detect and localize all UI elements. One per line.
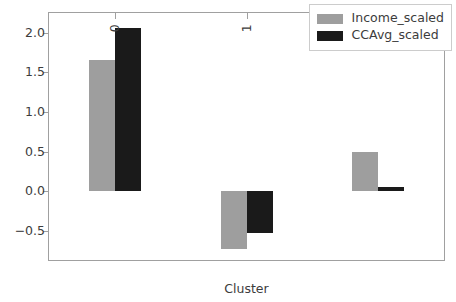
legend-item: CCAvg_scaled: [317, 27, 444, 44]
legend-swatch-income-scaled: [317, 14, 343, 24]
x-tick-mark: [115, 13, 116, 19]
legend-label-income-scaled: Income_scaled: [352, 12, 444, 25]
legend-swatch-ccavg-scaled: [317, 31, 343, 41]
y-tick-label: 0.0: [25, 185, 45, 198]
y-tick-label: 0.5: [25, 145, 45, 158]
legend-label-ccavg-scaled: CCAvg_scaled: [352, 29, 439, 42]
bar: [89, 60, 115, 191]
y-tick-label: 1.0: [25, 106, 45, 119]
chart-legend: Income_scaled CCAvg_scaled: [309, 4, 452, 51]
bar: [247, 191, 273, 233]
bar: [221, 191, 247, 249]
x-tick-label: 0: [109, 24, 122, 32]
legend-item: Income_scaled: [317, 10, 444, 27]
y-tick-label: 2.0: [25, 27, 45, 40]
bar: [352, 152, 378, 191]
y-tick-label: 1.5: [25, 66, 45, 79]
chart-figure: 2.01.51.00.50.0−0.5012 Cluster Income_sc…: [0, 0, 456, 302]
x-tick-mark: [247, 13, 248, 19]
x-tick-label: 1: [240, 24, 253, 32]
bar: [378, 187, 404, 191]
x-axis-label: Cluster: [48, 283, 445, 296]
y-tick-label: −0.5: [15, 224, 45, 237]
bar: [115, 28, 141, 191]
